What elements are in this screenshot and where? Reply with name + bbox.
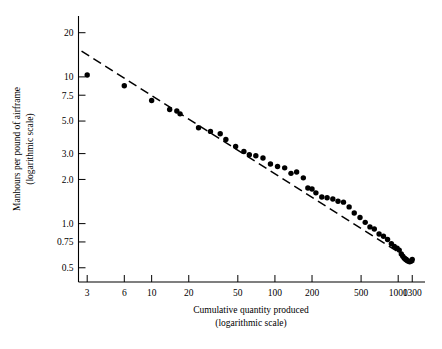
x-tick-label: 3 bbox=[85, 288, 90, 298]
y-axis-subtitle: (logarithmic scale) bbox=[25, 113, 36, 184]
y-tick-label: 3.0 bbox=[62, 149, 74, 159]
x-tick-label: 500 bbox=[354, 288, 369, 298]
data-point bbox=[218, 131, 223, 136]
data-point bbox=[149, 98, 154, 103]
y-tick-label: 1.0 bbox=[62, 219, 74, 229]
data-point bbox=[122, 83, 127, 88]
data-point bbox=[341, 199, 346, 204]
x-axis-title-group: Cumulative quantity produced (logarithmi… bbox=[193, 305, 309, 329]
data-point bbox=[282, 165, 287, 170]
data-point bbox=[268, 161, 273, 166]
data-point bbox=[352, 210, 357, 215]
data-point bbox=[330, 196, 335, 201]
data-point bbox=[85, 72, 90, 77]
y-axis-tick-labels: 20107.55.03.02.01.00.750.5 bbox=[57, 28, 74, 273]
data-point bbox=[319, 194, 324, 199]
x-tick-label: 10 bbox=[147, 288, 157, 298]
data-point bbox=[233, 144, 238, 149]
data-point bbox=[247, 152, 252, 157]
x-axis-tick-labels: 3610205010020050010001300 bbox=[85, 288, 422, 298]
data-point bbox=[335, 199, 340, 204]
learning-curve-figure: 20107.55.03.02.01.00.750.5 3610205010020… bbox=[0, 0, 442, 349]
data-point bbox=[410, 257, 415, 262]
data-point bbox=[288, 171, 293, 176]
chart-canvas: 20107.55.03.02.01.00.750.5 3610205010020… bbox=[0, 0, 442, 349]
data-point bbox=[363, 220, 368, 225]
y-tick-label: 5.0 bbox=[62, 116, 74, 126]
y-tick-label: 7.5 bbox=[62, 91, 74, 101]
y-tick-label: 2.0 bbox=[62, 175, 74, 185]
data-point bbox=[324, 195, 329, 200]
y-tick-label: 0.75 bbox=[57, 237, 74, 247]
y-axis-ticks bbox=[79, 33, 86, 268]
data-point bbox=[177, 111, 182, 116]
data-point bbox=[241, 149, 246, 154]
y-tick-label: 20 bbox=[64, 28, 74, 38]
data-point bbox=[309, 186, 314, 191]
data-point bbox=[357, 215, 362, 220]
data-point bbox=[208, 129, 213, 134]
y-tick-label: 0.5 bbox=[62, 263, 74, 273]
x-tick-label: 1300 bbox=[403, 288, 422, 298]
data-point bbox=[260, 155, 265, 160]
data-point bbox=[167, 107, 172, 112]
data-point bbox=[372, 226, 377, 231]
data-point bbox=[253, 153, 258, 158]
x-tick-label: 100 bbox=[268, 288, 283, 298]
plot-axes bbox=[79, 16, 426, 282]
x-tick-label: 200 bbox=[305, 288, 320, 298]
data-point bbox=[196, 125, 201, 130]
x-tick-label: 20 bbox=[184, 288, 194, 298]
x-axis-title: Cumulative quantity produced bbox=[193, 305, 309, 315]
data-point bbox=[275, 164, 280, 169]
x-tick-label: 6 bbox=[122, 288, 127, 298]
data-point bbox=[223, 137, 228, 142]
x-axis-subtitle: (logarithmic scale) bbox=[215, 318, 286, 329]
data-point bbox=[301, 175, 306, 180]
y-axis-title-group: Manhours per pound of airframe (logarith… bbox=[12, 87, 36, 211]
data-points-group bbox=[85, 72, 415, 264]
data-point bbox=[385, 237, 390, 242]
data-point bbox=[346, 204, 351, 209]
data-point bbox=[313, 190, 318, 195]
y-axis-title: Manhours per pound of airframe bbox=[12, 87, 22, 211]
x-axis-ticks bbox=[87, 275, 412, 282]
y-tick-label: 10 bbox=[64, 72, 74, 82]
data-point bbox=[294, 169, 299, 174]
x-tick-label: 50 bbox=[233, 288, 243, 298]
